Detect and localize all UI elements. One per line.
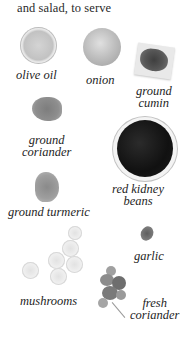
label-line: coriander (22, 146, 71, 158)
garlic-icon (138, 224, 157, 242)
mushroom-shape (50, 268, 67, 285)
ingredient-label-mushrooms: mushrooms (20, 295, 77, 307)
ingredient-label-garlic: garlic (134, 250, 164, 262)
ground-coriander-icon (32, 97, 62, 121)
ingredient-label-ground-turmeric: ground turmeric (8, 206, 90, 218)
leaf-shape (98, 298, 108, 308)
ingredient-label-fresh-coriander: fresh coriander (130, 297, 179, 321)
ground-turmeric-icon (35, 172, 59, 202)
ingredient-label-onion: onion (86, 74, 114, 86)
label-line: cumin (136, 97, 172, 109)
mushroom-shape (62, 240, 79, 257)
ingredient-label-red-kidney-beans: red kidney beans (112, 183, 164, 207)
leaf-shape (116, 290, 126, 300)
mushroom-shape (66, 256, 83, 273)
onion-icon (83, 28, 121, 66)
ingredient-label-olive-oil: olive oil (16, 69, 57, 81)
mushroom-shape (48, 252, 65, 269)
label-line: beans (112, 195, 164, 207)
mushrooms-icon (20, 226, 90, 286)
mushroom-shape (68, 226, 82, 240)
mushroom-shape (22, 262, 39, 279)
ingredient-label-ground-cumin: ground cumin (136, 85, 172, 109)
red-kidney-beans-icon (117, 120, 173, 177)
olive-oil-icon (20, 27, 57, 64)
section-heading: and salad, to serve (17, 1, 111, 16)
ingredient-label-ground-coriander: ground coriander (22, 134, 71, 158)
label-line: coriander (130, 309, 179, 321)
